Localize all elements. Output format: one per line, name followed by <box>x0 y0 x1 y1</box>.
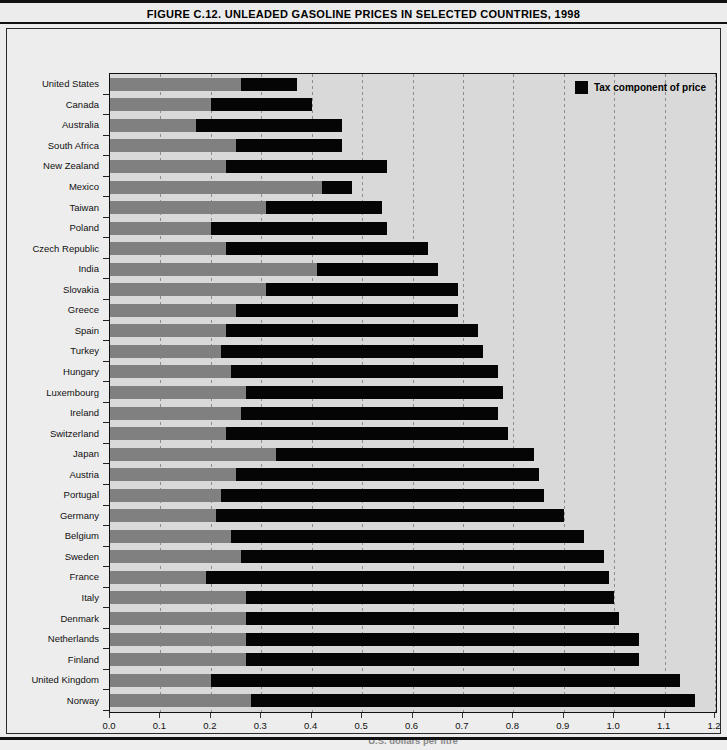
bar-segment-pretax <box>110 283 266 296</box>
title-rule-top <box>0 0 727 3</box>
y-axis-label: Slovakia <box>63 283 99 294</box>
y-axis-label: New Zealand <box>43 160 99 171</box>
bar-segment-tax <box>266 283 458 296</box>
figure-title-bar: FIGURE C.12. UNLEADED GASOLINE PRICES IN… <box>0 0 727 24</box>
bar-rows <box>110 74 716 712</box>
x-axis-tick <box>512 713 513 718</box>
bar-row <box>110 201 716 214</box>
bar-segment-pretax <box>110 612 246 625</box>
bar-row <box>110 407 716 420</box>
y-axis-label: Taiwan <box>69 201 99 212</box>
bar-row <box>110 365 716 378</box>
x-axis-tick <box>210 713 211 718</box>
bar-row <box>110 591 716 604</box>
bar-segment-tax <box>246 591 614 604</box>
y-axis-label: Switzerland <box>50 427 99 438</box>
figure-frame: United StatesCanadaAustraliaSouth Africa… <box>6 28 721 734</box>
y-axis-label: Austria <box>69 468 99 479</box>
y-axis-label: Turkey <box>70 345 99 356</box>
bar-row <box>110 263 716 276</box>
x-axis-label: 0.0 <box>102 720 115 731</box>
bar-row <box>110 509 716 522</box>
legend-swatch-tax <box>575 81 588 94</box>
bar-segment-tax <box>241 407 498 420</box>
bar-segment-tax <box>211 98 312 111</box>
x-axis-label: 0.4 <box>304 720 317 731</box>
bar-row <box>110 530 716 543</box>
plot-area <box>109 73 717 713</box>
bar-segment-tax <box>266 201 382 214</box>
bar-segment-pretax <box>110 674 211 687</box>
y-axis-label: Ireland <box>70 407 99 418</box>
y-axis-label: Italy <box>82 591 99 602</box>
y-axis-label: Australia <box>62 119 99 130</box>
bar-row <box>110 283 716 296</box>
bar-row <box>110 324 716 337</box>
bar-row <box>110 98 716 111</box>
bar-segment-tax <box>317 263 438 276</box>
y-axis-label: France <box>69 571 99 582</box>
y-axis-label: United States <box>42 78 99 89</box>
bar-row <box>110 448 716 461</box>
bar-segment-tax <box>276 448 533 461</box>
bar-segment-tax <box>211 222 387 235</box>
x-axis-tick <box>563 713 564 718</box>
y-axis-label: Luxembourg <box>46 386 99 397</box>
bar-segment-tax <box>216 509 564 522</box>
y-axis-labels: United StatesCanadaAustraliaSouth Africa… <box>7 73 109 713</box>
bar-segment-pretax <box>110 345 221 358</box>
bar-segment-tax <box>226 242 428 255</box>
y-axis-label: India <box>78 263 99 274</box>
bar-segment-tax <box>226 324 478 337</box>
bar-segment-tax <box>236 468 539 481</box>
bar-segment-tax <box>322 181 352 194</box>
bar-segment-pretax <box>110 530 231 543</box>
page-title: FIGURE C.12. UNLEADED GASOLINE PRICES IN… <box>147 8 580 20</box>
bar-segment-tax <box>221 345 483 358</box>
bar-segment-tax <box>246 633 639 646</box>
legend: Tax component of price <box>575 81 706 94</box>
bar-row <box>110 550 716 563</box>
bar-segment-tax <box>226 160 387 173</box>
x-axis-label: 0.3 <box>254 720 267 731</box>
x-axis-tick <box>613 713 614 718</box>
bar-segment-tax <box>236 304 458 317</box>
y-axis-label: Germany <box>60 509 99 520</box>
bar-row <box>110 612 716 625</box>
y-axis-label: Hungary <box>63 365 99 376</box>
y-axis-label: Czech Republic <box>32 242 99 253</box>
x-axis-label: 0.1 <box>153 720 166 731</box>
bar-row <box>110 633 716 646</box>
bar-segment-pretax <box>110 365 231 378</box>
y-axis-label: Japan <box>73 448 99 459</box>
bar-segment-tax <box>236 139 342 152</box>
x-axis-label: 0.6 <box>405 720 418 731</box>
x-axis-tick <box>462 713 463 718</box>
bar-segment-pretax <box>110 263 317 276</box>
bar-segment-tax <box>196 119 342 132</box>
y-axis-label: Norway <box>67 694 99 705</box>
bar-segment-pretax <box>110 98 211 111</box>
x-axis-label: 1.0 <box>607 720 620 731</box>
y-axis-label: Netherlands <box>48 633 99 644</box>
bar-segment-tax <box>231 530 584 543</box>
bar-row <box>110 386 716 399</box>
bar-segment-tax <box>246 386 503 399</box>
bar-segment-pretax <box>110 489 221 502</box>
bar-row <box>110 694 716 707</box>
bar-segment-tax <box>231 365 498 378</box>
y-axis-label: South Africa <box>48 139 99 150</box>
x-axis-tick <box>159 713 160 718</box>
bar-row <box>110 653 716 666</box>
bar-row <box>110 181 716 194</box>
bar-segment-pretax <box>110 407 241 420</box>
bar-segment-pretax <box>110 509 216 522</box>
x-axis-label: 1.1 <box>657 720 670 731</box>
bar-segment-tax <box>241 78 296 91</box>
bar-segment-tax <box>226 427 508 440</box>
y-axis-label: Greece <box>68 304 99 315</box>
bar-segment-pretax <box>110 119 196 132</box>
y-axis-label: Canada <box>66 98 99 109</box>
bar-segment-pretax <box>110 468 236 481</box>
x-axis-label: 0.5 <box>354 720 367 731</box>
